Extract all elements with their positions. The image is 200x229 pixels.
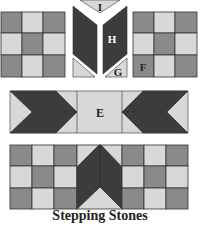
quilt-diagram: I H G F E	[0, 0, 200, 229]
diagram-title: Stepping Stones	[0, 208, 200, 224]
label-e: E	[96, 106, 104, 120]
bottom-row	[10, 145, 188, 209]
label-i: I	[98, 1, 102, 13]
label-h: H	[108, 33, 117, 45]
label-g: G	[114, 66, 123, 78]
label-f: F	[140, 61, 147, 73]
left-nine-patch	[1, 12, 65, 77]
